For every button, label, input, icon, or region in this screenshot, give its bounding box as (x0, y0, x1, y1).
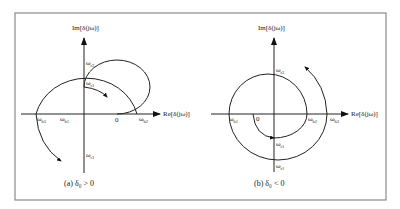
panel-b: Im[δ(jω)] Re[δ(jω)] ωr2 ωh1 0 ωh2 ωh3 ωr… (211, 24, 378, 188)
label-right-inner-b: ωh2 (308, 115, 317, 124)
im-axis-label-a: Im[δ(jω)] (72, 24, 99, 32)
caption-b: (b) δ₀ < 0 (254, 179, 284, 188)
re-axis-label-b: Re[δ(jω)] (351, 110, 378, 118)
label-outer-top-b: ωr2 (276, 66, 284, 75)
label-right-outer-a: ωh2 (139, 115, 148, 124)
origin-label-b: 0 (256, 115, 260, 123)
outer-top-b (229, 74, 307, 114)
figure-frame (15, 13, 386, 200)
label-inner-bottom-b: ωr1 (276, 140, 284, 149)
inner-lower-b (274, 114, 307, 138)
im-axis-label-b: Im[δ(jω)] (258, 24, 285, 32)
panel-a: Im[δ(jω)] Re[δ(jω)] ωr2 ωr1 ωh3 ωh1 0 ωh… (21, 24, 190, 188)
label-outer-top-a: ωr2 (86, 59, 94, 68)
label-left-outer-a: ωh3 (37, 115, 47, 124)
nyquist-diagram-figure: Im[δ(jω)] Re[δ(jω)] ωr2 ωr1 ωh3 ωh1 0 ωh… (0, 0, 400, 209)
label-left-inner-a: ωh1 (60, 115, 69, 124)
origin-label-a: 0 (115, 116, 119, 124)
inner-arrow-a (84, 87, 107, 97)
label-bottom-a: ωr1 (86, 151, 94, 160)
outer-arrow-b (305, 67, 327, 114)
label-left-outer-b: ωh1 (229, 115, 238, 124)
caption-a: (a) δ₀ > 0 (64, 179, 94, 188)
re-axis-label-a: Re[δ(jω)] (163, 110, 190, 118)
label-right-outer-b: ωh3 (330, 115, 340, 124)
label-outer-bottom-b: ωr1 (276, 162, 284, 171)
label-inner-top-a: ωr1 (86, 79, 94, 88)
